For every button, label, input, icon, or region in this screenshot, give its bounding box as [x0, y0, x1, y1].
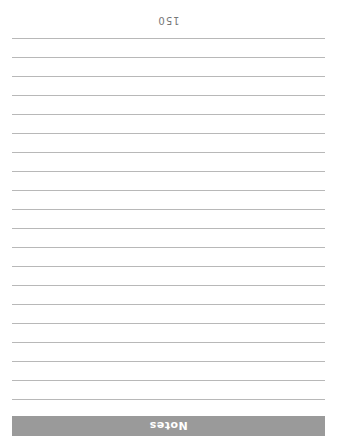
ruled-line [12, 209, 325, 210]
notes-header-label: Notes [149, 420, 188, 433]
ruled-line [12, 190, 325, 191]
ruled-line [12, 399, 325, 400]
ruled-line [12, 38, 325, 39]
ruled-line [12, 342, 325, 343]
ruled-line [12, 266, 325, 267]
ruled-line [12, 304, 325, 305]
ruled-line [12, 285, 325, 286]
ruled-line [12, 57, 325, 58]
page-number: 150 [0, 15, 337, 26]
ruled-line [12, 361, 325, 362]
ruled-line [12, 152, 325, 153]
ruled-line [12, 95, 325, 96]
ruled-line [12, 228, 325, 229]
ruled-line [12, 323, 325, 324]
ruled-line [12, 114, 325, 115]
ruled-line [12, 133, 325, 134]
ruled-line [12, 76, 325, 77]
ruled-line [12, 171, 325, 172]
ruled-line [12, 380, 325, 381]
ruled-line [12, 247, 325, 248]
notes-header-banner: Notes [12, 416, 325, 436]
notebook-page: Notes 150 [0, 0, 337, 440]
